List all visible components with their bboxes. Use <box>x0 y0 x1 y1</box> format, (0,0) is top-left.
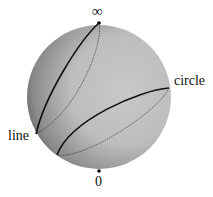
zero-label: 0 <box>95 175 102 189</box>
line-label: line <box>8 129 29 143</box>
infinity-label: ∞ <box>92 4 103 19</box>
circle-label: circle <box>174 74 205 88</box>
zero-point <box>97 169 101 173</box>
infinity-point <box>97 21 101 25</box>
riemann-sphere-diagram <box>0 0 213 197</box>
